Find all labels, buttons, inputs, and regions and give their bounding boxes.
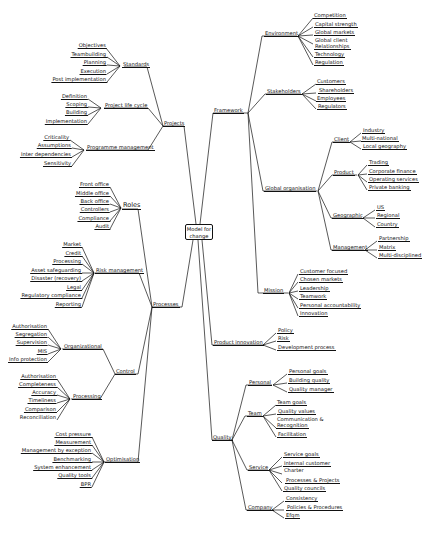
- leaf-internal-customer: Internal customer: [283, 460, 331, 467]
- leaf-definition: Definition: [61, 93, 88, 100]
- leaf-policy: Policy: [277, 327, 294, 334]
- leaf-assumptions: Assumptions: [37, 142, 72, 149]
- leaf-personal-accountability: Personal accountability: [299, 302, 361, 309]
- leaf-leadership: Leadership: [299, 285, 330, 292]
- leaf-criticality: Criticality: [43, 134, 70, 141]
- leaf-controllers: Controllers: [80, 206, 110, 213]
- leaf-info-protection: Info protection: [8, 356, 48, 363]
- node-organizational: Organizational: [63, 343, 103, 350]
- leaf-personal-goals: Personal goals: [288, 368, 328, 375]
- leaf-cost-pressure: Cost pressure: [54, 431, 92, 438]
- node-risk-management: Risk management: [95, 267, 144, 274]
- leaf-measurement: Measurement: [54, 439, 92, 446]
- leaf-back-office: Back office: [80, 198, 110, 205]
- node-programme-management: Programme management: [86, 144, 155, 151]
- leaf-timeliness: Timeliness: [28, 397, 57, 404]
- leaf-objectives: Objectives: [78, 42, 107, 49]
- leaf-quality-values: Quality values: [277, 408, 316, 415]
- leaf-matrix: Matrix: [378, 244, 396, 251]
- leaf-local-geography: Local geography: [362, 143, 407, 150]
- leaf-credit: Credit: [64, 250, 82, 257]
- root-label-line2: change: [186, 233, 212, 240]
- leaf-team-goals: Team goals: [276, 399, 307, 406]
- leaf-customers: Customers: [316, 78, 346, 85]
- leaf-authorisation-org: Authorisation: [11, 323, 48, 330]
- node-company: Company: [247, 504, 274, 511]
- leaf-consistency: Consistency: [285, 495, 318, 502]
- leaf-facilitation: Facilitation: [277, 431, 307, 438]
- leaf-building-quality: Building quality: [288, 377, 330, 384]
- node-product-innovation: Product innovation: [213, 339, 264, 346]
- leaf-compliance: Compliance: [77, 215, 110, 222]
- node-environment: Environment: [264, 30, 299, 37]
- leaf-industry: Industry: [362, 127, 385, 134]
- leaf-competition: Competition: [313, 12, 347, 19]
- leaf-regional: Regional: [376, 212, 400, 219]
- node-mission: Mission: [263, 287, 284, 294]
- leaf-system-enhancement: System enhancement: [33, 464, 92, 471]
- node-team: Team: [247, 410, 263, 417]
- leaf-technology: Technology: [314, 51, 345, 58]
- leaf-efqm: Efqm: [285, 512, 300, 519]
- leaf-operating-services: Operating services: [368, 176, 419, 183]
- leaf-processes-projects: Processes & Projects: [285, 477, 340, 484]
- node-control: Control: [115, 368, 136, 375]
- leaf-completeness: Completeness: [18, 381, 57, 388]
- leaf-country: Country: [376, 221, 399, 228]
- leaf-implementation: Implementation: [45, 118, 88, 125]
- leaf-corporate-finance: Corporate finance: [368, 168, 417, 175]
- node-roles: Roles: [122, 202, 141, 210]
- leaf-bpr: BPR: [80, 481, 92, 488]
- leaf-segregation: Segregation: [15, 331, 48, 338]
- leaf-partnership: Partnership: [378, 235, 410, 242]
- leaf-reporting: Reporting: [55, 301, 82, 308]
- leaf-development-process: Development process: [277, 344, 336, 351]
- node-product: Product: [333, 169, 355, 176]
- leaf-teamwork: Teamwork: [299, 293, 327, 300]
- leaf-mis: MIS: [37, 348, 48, 355]
- leaf-service-goals: Service goals: [283, 451, 320, 458]
- node-client: Client: [333, 136, 350, 143]
- node-optimisation: Optimisation: [105, 456, 140, 463]
- leaf-authorisation-proc: Authorisation: [20, 373, 57, 380]
- leaf-building: Building: [65, 109, 88, 116]
- node-quality: Quality: [212, 434, 233, 441]
- leaf-charter: Charter: [283, 467, 305, 473]
- leaf-multi-disciplined: Multi-disciplined: [378, 252, 422, 259]
- node-management: Management: [332, 244, 368, 251]
- leaf-relationships: Relationships: [314, 43, 351, 50]
- leaf-reconciliation: Reconciliation: [19, 414, 57, 420]
- leaf-employees: Employees: [316, 95, 346, 102]
- leaf-recognition: Recognition: [276, 422, 309, 429]
- leaf-regulators: Regulators: [317, 103, 347, 110]
- node-framework: Framework: [213, 107, 244, 114]
- node-processing: Processing: [72, 393, 102, 400]
- leaf-scoping: Scoping: [65, 101, 88, 108]
- leaf-accuracy: Accuracy: [31, 389, 57, 396]
- leaf-quality-manager: Quality manager: [288, 386, 334, 393]
- leaf-shareholders: Shareholders: [318, 87, 354, 94]
- leaf-audit: Audit: [94, 223, 110, 230]
- leaf-processing: Processing: [52, 258, 82, 265]
- leaf-regulation: Regulation: [314, 59, 344, 66]
- leaf-quality-tools: Quality tools: [57, 472, 92, 479]
- leaf-chosen-markets: Chosen markets: [299, 276, 343, 283]
- leaf-middle-office: Middle office: [75, 190, 110, 197]
- leaf-innovation: Innovation: [299, 310, 328, 317]
- node-processes: Processes: [152, 301, 180, 308]
- leaf-market: Market: [62, 241, 82, 248]
- leaf-benchmarking: Benchmarking: [52, 456, 92, 463]
- root-node-model-for-change: Model for change: [185, 224, 213, 240]
- leaf-legal: Legal: [66, 284, 82, 291]
- leaf-comparison: Comparison: [24, 406, 57, 413]
- leaf-private-banking: Private banking: [368, 184, 411, 191]
- node-stakeholders: Stakeholders: [266, 88, 302, 95]
- leaf-us: US: [376, 204, 385, 211]
- leaf-front-office: Front office: [79, 181, 110, 188]
- mind-map: Model for change Projects Standards Obje…: [0, 0, 430, 533]
- leaf-global-markets: Global markets: [314, 29, 355, 36]
- leaf-inter-dependencies: Inter dependencies: [20, 151, 72, 158]
- leaf-customer-focused: Customer focused: [299, 268, 348, 275]
- leaf-management-by-exception: Management by exception: [21, 447, 92, 454]
- node-project-life-cycle: Project life cycle: [104, 102, 148, 109]
